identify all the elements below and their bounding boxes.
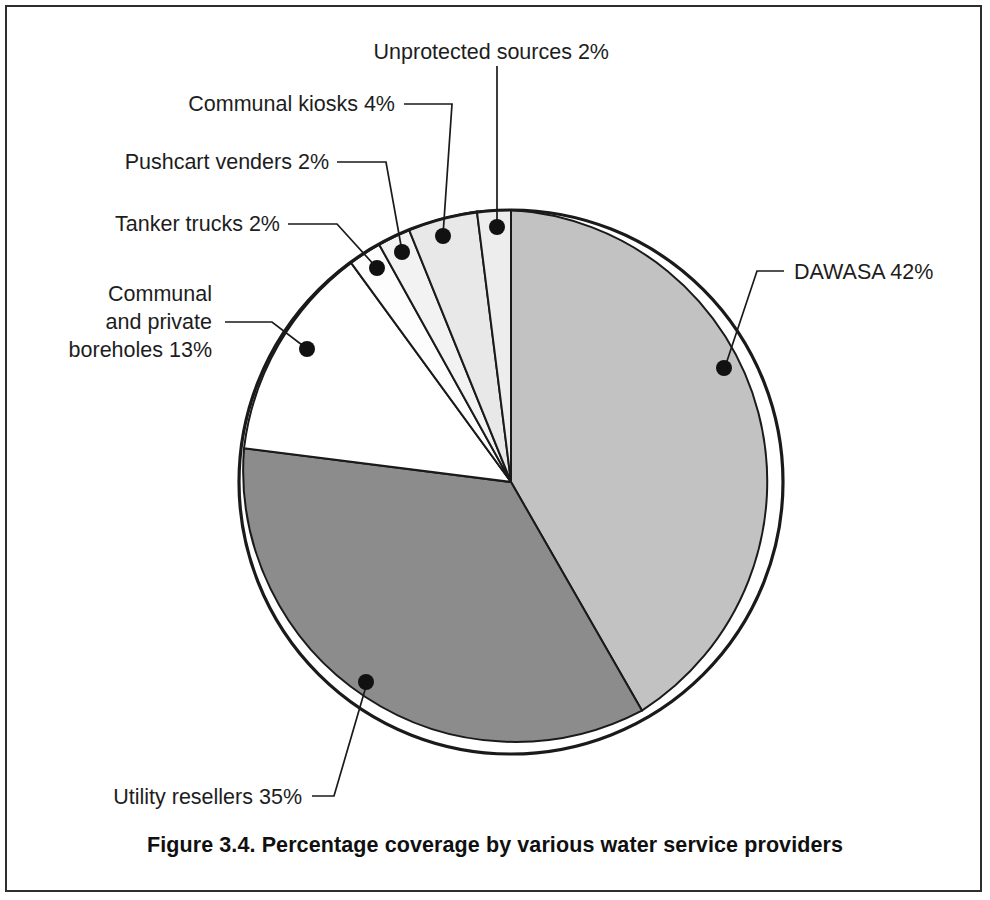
leader-dot-unprotected-sources [489,219,505,235]
figure-caption: Figure 3.4. Percentage coverage by vario… [0,833,990,858]
leader-line-utility-resellers [312,683,367,796]
label-communal-private-boreholes-line1: Communal [108,282,212,306]
pie-chart: Unprotected sources 2% Communal kiosks 4… [0,0,990,900]
label-tanker-trucks: Tanker trucks 2% [115,212,280,236]
label-communal-private-boreholes-line2: and private [106,310,212,334]
label-pushcart-venders: Pushcart venders 2% [125,150,329,174]
label-communal-private-boreholes-line3: boreholes 13% [69,338,212,362]
leader-dot-utility-resellers [358,674,374,690]
leader-line-communal-kiosks [404,104,452,235]
label-unprotected-sources: Unprotected sources 2% [374,40,609,64]
label-utility-resellers: Utility resellers 35% [113,785,302,809]
leader-dot-communal-kiosks [435,228,451,244]
figure-container: Unprotected sources 2% Communal kiosks 4… [0,0,990,900]
leader-dot-communal-private-boreholes [299,341,315,357]
leader-dot-tanker-trucks [369,260,385,276]
leader-dot-dawasa [716,360,732,376]
label-communal-kiosks: Communal kiosks 4% [188,92,395,116]
label-dawasa: DAWASA 42% [794,260,933,284]
leader-dot-pushcart-venders [394,244,410,260]
